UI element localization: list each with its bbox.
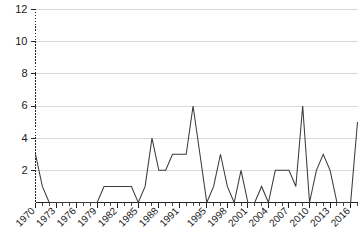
y-tick-label-6: 6 <box>21 99 27 111</box>
x-tick-label-2010: 2010 <box>287 205 311 229</box>
x-tick-label-1973: 1973 <box>34 205 58 229</box>
x-tick-label-1991: 1991 <box>157 205 181 229</box>
x-tick-label-2001: 2001 <box>226 205 250 229</box>
x-tick-label-1998: 1998 <box>205 205 229 229</box>
x-tick-label-2007: 2007 <box>267 205 291 229</box>
x-tick-label-2013: 2013 <box>308 205 332 229</box>
series-group <box>36 106 358 203</box>
x-tick-label-2016: 2016 <box>329 205 353 229</box>
y-tick-label-4: 4 <box>21 132 27 144</box>
y-tick-label-2: 2 <box>21 164 27 176</box>
line-chart: 24681012 1970197319761979198219851988199… <box>0 0 364 243</box>
series-line-count <box>36 106 358 203</box>
x-tick-label-1988: 1988 <box>137 205 161 229</box>
x-tick-label-1970: 1970 <box>13 205 37 229</box>
y-tick-label-10: 10 <box>15 35 27 47</box>
x-axis: 1970197319761979198219851988199119951998… <box>13 203 357 229</box>
x-tick-label-1976: 1976 <box>55 205 79 229</box>
x-tick-label-1979: 1979 <box>75 205 99 229</box>
y-tick-label-8: 8 <box>21 67 27 79</box>
y-axis: 24681012 <box>15 3 35 203</box>
x-tick-label-2004: 2004 <box>246 205 270 229</box>
x-tick-label-1982: 1982 <box>96 205 120 229</box>
x-tick-label-1985: 1985 <box>116 205 140 229</box>
x-tick-label-1995: 1995 <box>185 205 209 229</box>
chart-canvas: 24681012 1970197319761979198219851988199… <box>0 0 364 243</box>
y-tick-label-12: 12 <box>15 3 27 15</box>
gridlines-group <box>36 10 358 171</box>
